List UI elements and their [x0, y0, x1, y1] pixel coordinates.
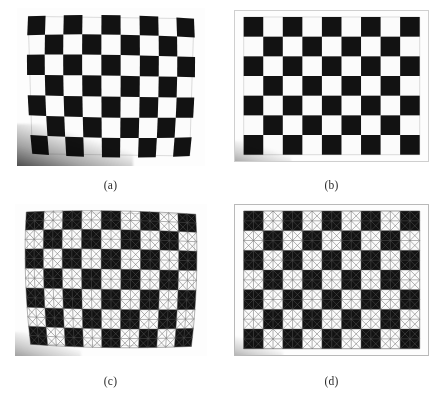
checker-square-dark [341, 76, 361, 96]
checker-square-dark [120, 118, 139, 138]
figure-panel-a: (a) [0, 0, 219, 198]
panel-a-caption: (a) [104, 180, 117, 192]
checker-square-dark [322, 56, 342, 76]
checker-square-dark [139, 55, 158, 76]
checker-square-dark [244, 17, 264, 37]
checker-square-dark [63, 96, 82, 117]
checker-square-dark [82, 117, 101, 138]
checker-square-dark [302, 37, 322, 57]
checker-square-dark [176, 17, 194, 37]
checkerboard-distorted [17, 8, 205, 166]
checker-square-dark [120, 76, 139, 97]
checker-square-dark [44, 75, 63, 96]
checker-square-dark [101, 15, 120, 35]
checker-square-dark [173, 137, 192, 156]
panel-d-image [234, 204, 429, 356]
checker-square-dark [263, 76, 283, 96]
checker-square-dark [177, 56, 195, 77]
checker-square-dark [361, 56, 381, 76]
checker-square-dark [283, 17, 303, 37]
checker-square-dark [400, 17, 420, 37]
checker-square-dark [120, 35, 139, 56]
figure-panel-d: (d) [219, 198, 438, 396]
checker-square-dark [158, 36, 177, 57]
checkerboard-distorted-with-mesh [15, 204, 207, 356]
checker-square-dark [101, 138, 120, 158]
checker-square-dark [283, 135, 303, 155]
checker-square-dark [158, 76, 177, 97]
panel-d-caption: (d) [324, 376, 338, 388]
panel-a-image [17, 8, 205, 166]
checker-square-dark [361, 135, 381, 155]
figure-panel-grid: (a) (b) (c) (d) [0, 0, 438, 396]
checker-square-dark [322, 135, 342, 155]
figure-panel-c: (c) [0, 198, 219, 396]
checker-square-dark [101, 97, 120, 118]
checker-square-dark [400, 56, 420, 76]
checker-square-dark [322, 17, 342, 37]
checker-square-dark [400, 135, 420, 155]
panel-c-caption: (c) [104, 376, 117, 388]
checker-square-dark [30, 135, 49, 155]
checker-square-dark [244, 56, 264, 76]
checker-square-dark [381, 115, 401, 135]
checker-square-dark [27, 16, 45, 35]
checker-square-dark [44, 34, 63, 54]
checker-square-dark [27, 95, 46, 116]
checker-square-dark [139, 97, 158, 118]
checker-square-dark [63, 15, 82, 34]
checker-square-dark [244, 135, 264, 155]
checkerboard-rectified [235, 11, 428, 161]
panel-b-image [234, 10, 429, 162]
checker-square-dark [341, 115, 361, 135]
checker-square-dark [283, 96, 303, 116]
checker-square-dark [263, 37, 283, 57]
checker-square-dark [302, 76, 322, 96]
checker-square-dark [322, 96, 342, 116]
checker-square-dark [283, 56, 303, 76]
panel-c-image [15, 204, 207, 356]
checker-square-dark [26, 55, 44, 75]
checker-square-dark [156, 118, 175, 138]
checker-square-dark [361, 96, 381, 116]
checkerboard-rectified-with-mesh [235, 205, 428, 355]
panel-b-caption: (b) [324, 180, 338, 192]
checker-square-dark [65, 137, 84, 157]
checker-square-dark [101, 55, 120, 76]
checker-square-dark [400, 96, 420, 116]
checker-square-dark [138, 138, 157, 157]
checker-square-dark [341, 37, 361, 57]
checker-square-dark [381, 37, 401, 57]
figure-panel-b: (b) [219, 0, 438, 198]
checker-square-dark [63, 55, 82, 76]
checker-square-dark [46, 116, 65, 137]
checker-square-dark [361, 17, 381, 37]
checker-square-dark [302, 115, 322, 135]
checker-square-dark [82, 75, 101, 96]
checker-square-dark [175, 97, 194, 117]
checker-square-dark [139, 16, 158, 36]
checker-square-dark [263, 115, 283, 135]
checker-square-dark [381, 76, 401, 96]
checker-square-dark [244, 96, 264, 116]
checker-square-dark [82, 34, 101, 54]
